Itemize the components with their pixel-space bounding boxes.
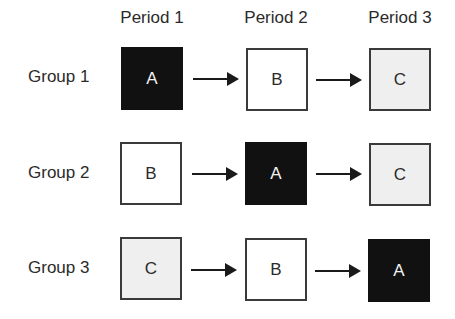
arrow-icon bbox=[193, 78, 237, 80]
arrow-icon bbox=[191, 269, 235, 271]
group-1-period-3-box: C bbox=[369, 48, 431, 111]
group-2-label: Group 2 bbox=[28, 163, 89, 183]
group-3-period-3-box: A bbox=[368, 239, 430, 302]
group-1-period-1-box: A bbox=[121, 47, 183, 110]
period-3-header: Period 3 bbox=[355, 8, 445, 28]
period-2-header: Period 2 bbox=[231, 8, 321, 28]
period-1-header: Period 1 bbox=[107, 8, 197, 28]
group-1-period-2-box: B bbox=[246, 48, 308, 111]
group-2-period-2-box: A bbox=[245, 142, 307, 205]
arrow-icon bbox=[192, 173, 236, 175]
group-3-label: Group 3 bbox=[28, 258, 89, 278]
group-3-period-1-box: C bbox=[120, 237, 182, 300]
arrow-icon bbox=[316, 79, 360, 81]
arrow-icon bbox=[315, 270, 359, 272]
group-3-period-2-box: B bbox=[245, 238, 307, 301]
arrow-icon bbox=[316, 173, 360, 175]
group-1-label: Group 1 bbox=[28, 67, 89, 87]
group-2-period-3-box: C bbox=[369, 143, 431, 206]
group-2-period-1-box: B bbox=[120, 142, 182, 205]
